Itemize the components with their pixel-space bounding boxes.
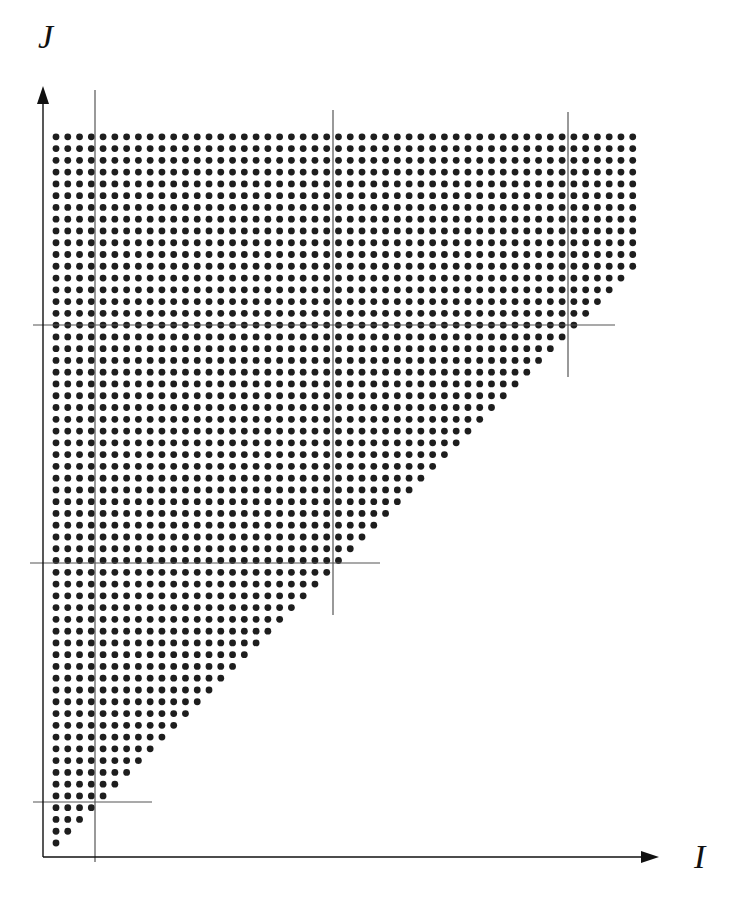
iteration-point	[64, 745, 71, 752]
iteration-point	[111, 569, 118, 576]
iteration-point	[370, 498, 377, 505]
iteration-point	[535, 145, 542, 152]
iteration-point	[335, 451, 342, 458]
iteration-point	[441, 439, 448, 446]
iteration-point	[394, 192, 401, 199]
iteration-point	[64, 828, 71, 835]
iteration-point	[170, 416, 177, 423]
iteration-point	[135, 286, 142, 293]
iteration-point	[347, 157, 354, 164]
iteration-point	[312, 263, 319, 270]
iteration-point	[406, 263, 413, 270]
iteration-point	[76, 216, 83, 223]
iteration-point	[323, 263, 330, 270]
iteration-point	[53, 804, 60, 811]
iteration-point	[441, 392, 448, 399]
iteration-point	[264, 545, 271, 552]
iteration-point	[135, 228, 142, 235]
iteration-point	[182, 698, 189, 705]
iteration-point	[417, 286, 424, 293]
iteration-point	[64, 239, 71, 246]
iteration-point	[147, 534, 154, 541]
iteration-point	[170, 640, 177, 647]
iteration-point	[359, 428, 366, 435]
iteration-point	[382, 216, 389, 223]
iteration-point	[523, 169, 530, 176]
iteration-point	[111, 604, 118, 611]
iteration-point	[217, 357, 224, 364]
iteration-point	[253, 616, 260, 623]
iteration-point	[570, 169, 577, 176]
iteration-point	[111, 722, 118, 729]
iteration-point	[88, 381, 95, 388]
iteration-point	[88, 192, 95, 199]
iteration-point	[312, 239, 319, 246]
iteration-point	[500, 310, 507, 317]
iteration-point	[229, 216, 236, 223]
iteration-point	[488, 133, 495, 140]
iteration-point	[276, 333, 283, 340]
iteration-point	[241, 180, 248, 187]
iteration-point	[264, 510, 271, 517]
iteration-point	[359, 310, 366, 317]
iteration-point	[264, 263, 271, 270]
iteration-point	[135, 310, 142, 317]
iteration-point	[111, 698, 118, 705]
iteration-point	[135, 734, 142, 741]
iteration-point	[135, 145, 142, 152]
iteration-point	[64, 416, 71, 423]
iteration-point	[312, 216, 319, 223]
iteration-point	[194, 451, 201, 458]
iteration-point	[523, 310, 530, 317]
iteration-point	[417, 251, 424, 258]
iteration-point	[370, 451, 377, 458]
iteration-point	[147, 275, 154, 282]
iteration-point	[229, 333, 236, 340]
iteration-point	[288, 381, 295, 388]
iteration-point	[123, 592, 130, 599]
iteration-point	[206, 451, 213, 458]
iteration-point	[453, 381, 460, 388]
iteration-point	[488, 204, 495, 211]
iteration-point	[347, 192, 354, 199]
iteration-point	[570, 133, 577, 140]
iteration-point	[241, 228, 248, 235]
iteration-point	[170, 298, 177, 305]
iteration-point	[417, 157, 424, 164]
iteration-point	[582, 216, 589, 223]
iteration-point	[88, 228, 95, 235]
iteration-point	[288, 392, 295, 399]
iteration-point	[206, 357, 213, 364]
iteration-point	[64, 381, 71, 388]
iteration-point	[417, 180, 424, 187]
iteration-point	[194, 592, 201, 599]
iteration-point	[253, 569, 260, 576]
iteration-point	[312, 475, 319, 482]
iteration-point	[547, 216, 554, 223]
iteration-point	[312, 463, 319, 470]
iteration-point	[53, 487, 60, 494]
iteration-point	[182, 369, 189, 376]
iteration-point	[300, 487, 307, 494]
iteration-point	[159, 604, 166, 611]
iteration-point	[453, 192, 460, 199]
iteration-point	[253, 263, 260, 270]
iteration-point	[88, 157, 95, 164]
iteration-point	[512, 369, 519, 376]
iteration-point	[111, 640, 118, 647]
iteration-point	[323, 333, 330, 340]
iteration-point	[264, 475, 271, 482]
iteration-point	[312, 381, 319, 388]
iteration-point	[229, 463, 236, 470]
iteration-point	[88, 757, 95, 764]
iteration-point	[441, 369, 448, 376]
iteration-point	[182, 392, 189, 399]
iteration-point	[135, 475, 142, 482]
iteration-point	[111, 592, 118, 599]
iteration-point	[347, 416, 354, 423]
iteration-point	[123, 769, 130, 776]
iteration-point	[253, 604, 260, 611]
iteration-point	[123, 640, 130, 647]
iteration-point	[276, 616, 283, 623]
iteration-point	[64, 569, 71, 576]
